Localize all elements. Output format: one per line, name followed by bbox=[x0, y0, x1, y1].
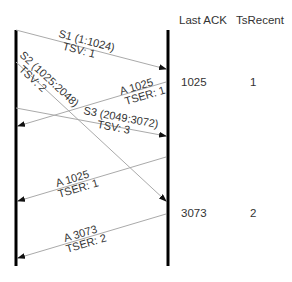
column-header-last-ack: Last ACK bbox=[179, 14, 227, 26]
sequence-diagram: S1 (1:1024) TSV: 1 S2 (1025:2048) TSV: 2… bbox=[0, 0, 292, 282]
column-header-ts-recent: TsRecent bbox=[236, 14, 285, 26]
ts-recent-value: 1 bbox=[250, 76, 256, 88]
ts-recent-value: 2 bbox=[250, 207, 256, 219]
last-ack-value: 1025 bbox=[181, 76, 207, 88]
last-ack-value: 3073 bbox=[181, 207, 207, 219]
